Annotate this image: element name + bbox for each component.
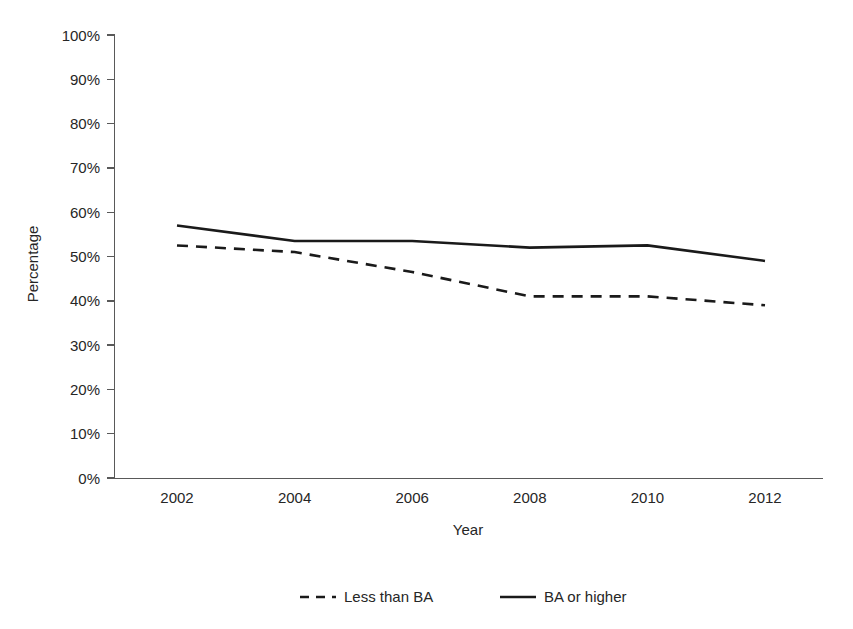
y-tick-label: 60% (70, 204, 100, 221)
y-tick-label: 30% (70, 337, 100, 354)
x-tick-label: 2004 (278, 489, 311, 506)
y-tick-label: 90% (70, 71, 100, 88)
y-tick-label: 10% (70, 425, 100, 442)
legend-label: BA or higher (544, 588, 627, 605)
line-chart: 0%10%20%30%40%50%60%70%80%90%100% 200220… (0, 0, 853, 629)
x-axis-title: Year (453, 521, 483, 538)
y-tick-label: 70% (70, 159, 100, 176)
y-tick-label: 50% (70, 248, 100, 265)
y-tick-label: 0% (78, 470, 100, 487)
x-tick-label: 2012 (748, 489, 781, 506)
x-tick-label: 2002 (160, 489, 193, 506)
legend-label: Less than BA (344, 588, 433, 605)
y-tick-label: 80% (70, 115, 100, 132)
y-tick-label: 40% (70, 292, 100, 309)
x-tick-label: 2008 (513, 489, 546, 506)
y-axis-title: Percentage (24, 226, 41, 303)
chart-background (0, 0, 853, 629)
y-tick-label: 100% (62, 27, 100, 44)
x-tick-label: 2010 (631, 489, 664, 506)
x-tick-label: 2006 (396, 489, 429, 506)
y-tick-label: 20% (70, 381, 100, 398)
chart-canvas: 0%10%20%30%40%50%60%70%80%90%100% 200220… (0, 0, 853, 629)
